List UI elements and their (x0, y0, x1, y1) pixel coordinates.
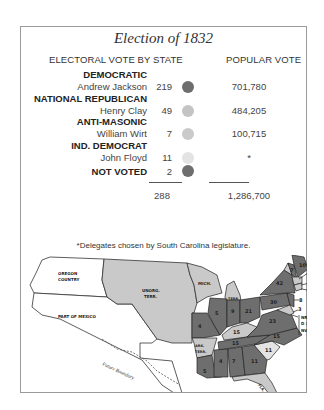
anti-masonic-swatch-icon (182, 128, 194, 140)
oregon-label-2: COUNTRY (58, 277, 80, 282)
electoral-floyd: 11 (152, 152, 172, 163)
party-not-voted: NOT VOTED (21, 166, 147, 177)
party-democratic: DEMOCRATIC (21, 69, 147, 80)
vote-md-d: D 3 (301, 321, 307, 326)
mexico-label: PART OF MEXICO (58, 314, 96, 319)
electoral-wirt: 7 (152, 128, 172, 139)
popular-jackson: 701,780 (214, 81, 284, 92)
mich-terr-label: TERR. (228, 297, 240, 301)
candidate-wirt: William Wirt (21, 128, 147, 139)
vote-va: 23 (269, 318, 276, 324)
candidate-floyd: John Floyd (21, 152, 147, 163)
vote-mo: 4 (198, 323, 202, 329)
vote-nc: 15 (273, 333, 280, 339)
oregon-label: OREGON (58, 271, 77, 276)
party-ind-democrat: IND. DEMOCRAT (21, 140, 147, 151)
election-panel: Election of 1832 ELECTORAL VOTE BY STATE… (20, 26, 307, 393)
electoral-jackson: 219 (152, 81, 172, 92)
arkansas-territory (192, 338, 217, 358)
electoral-total: 288 (149, 190, 175, 201)
future-boundary-label: Future Boundary (101, 361, 136, 381)
national-republican-swatch-icon (182, 105, 194, 117)
page-title: Election of 1832 (21, 30, 306, 47)
popular-floyd: * (214, 152, 284, 163)
footnote: *Delegates chosen by South Carolina legi… (21, 241, 306, 250)
vote-de: 3 (298, 306, 302, 312)
ark-label-2: TERR. (195, 350, 207, 354)
unorg-label: UNORG. (142, 288, 160, 293)
party-anti-masonic: ANTI-MASONIC (21, 116, 147, 127)
ind-democrat-swatch-icon (182, 152, 194, 164)
vote-il: 5 (215, 310, 219, 316)
candidate-jackson: Andrew Jackson (21, 81, 147, 92)
party-national-republican: NATIONAL REPUBLICAN (21, 93, 147, 104)
vote-ga: 11 (251, 358, 258, 364)
florida-territory (232, 373, 278, 392)
electoral-header: ELECTORAL VOTE BY STATE (49, 54, 183, 65)
vote-md-nv: NV 2 (301, 328, 307, 333)
vote-sc: 11 (265, 347, 272, 353)
vote-in: 9 (231, 308, 235, 314)
vote-md-nr: NR 5 (301, 315, 307, 320)
popular-wirt: 100,715 (214, 128, 284, 139)
electoral-total-rule (149, 182, 182, 183)
democratic-swatch-icon (182, 81, 194, 93)
not-voted-swatch-icon (182, 165, 194, 177)
popular-clay: 484,205 (214, 105, 284, 116)
vote-al: 7 (232, 358, 236, 364)
vote-tn: 15 (232, 340, 239, 346)
popular-total-rule (209, 182, 249, 183)
vote-nj: 8 (299, 297, 303, 303)
vote-oh: 21 (245, 308, 252, 314)
vote-ky: 15 (233, 329, 240, 335)
us-map: OREGON COUNTRY PART OF MEXICO UNORG. TER… (22, 255, 307, 392)
popular-total: 1,286,700 (214, 190, 284, 201)
candidate-clay: Henry Clay (21, 105, 147, 116)
electoral-not-voted: 2 (152, 166, 172, 177)
mich-label: MICH. (198, 281, 212, 286)
vote-ms: 4 (219, 358, 223, 364)
unorg-label-2: TERR. (144, 294, 158, 299)
vote-pa: 30 (270, 299, 277, 305)
vote-me: 10 (299, 262, 306, 268)
popular-header: POPULAR VOTE (226, 54, 301, 65)
ark-label: ARK. (195, 344, 204, 348)
vote-la: 5 (203, 368, 207, 374)
electoral-clay: 49 (152, 105, 172, 116)
vote-nh: 7 (290, 267, 294, 273)
vote-ny: 42 (276, 280, 283, 286)
